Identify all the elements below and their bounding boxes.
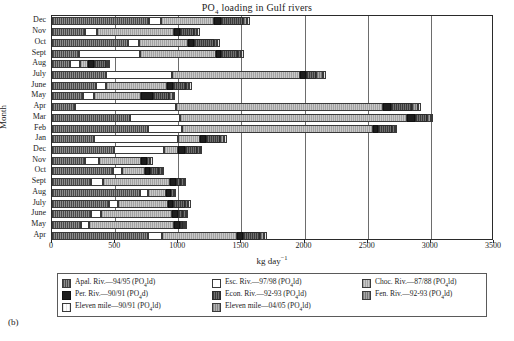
legend-item-elev04[interactable]: Eleven mile—04/05 (PO4ld) [212, 302, 362, 313]
bar-row [52, 50, 244, 58]
bar-segment-esc [79, 50, 140, 58]
legend-label-fen: Fen. Riv.—92-93 (PO4ld) [375, 290, 452, 301]
bar-row [52, 82, 192, 90]
legend-item-econ[interactable]: Econ. Riv.—92-93 (PO4ld) [212, 290, 362, 301]
bar-segment-esc [85, 28, 97, 36]
legend-item-per[interactable]: Per. Riv.—90/91 (PO4d) [62, 290, 212, 301]
bar-segment-apal [52, 125, 148, 133]
y-tick-label: Dec [33, 145, 46, 153]
bar-segment-elev90 [323, 71, 326, 79]
legend: Apal. Riv.—94/95 (PO4ld)Esc. Riv.—97/98 … [57, 273, 487, 317]
bar-segment-per [141, 92, 153, 100]
x-tick-label-3000: 3000 [422, 242, 438, 250]
bar-segment-choc [164, 146, 178, 154]
bar-segment-econ [378, 125, 392, 133]
bar-segment-choc [161, 17, 214, 25]
bar-segment-esc [128, 39, 139, 47]
legend-swatch-apal [62, 279, 71, 288]
bar-row [52, 17, 250, 25]
y-tick-label: Oct [34, 38, 46, 46]
bar-segment-apal [52, 103, 75, 111]
bar-row [52, 221, 187, 229]
bar-segment-apal [52, 167, 113, 175]
x-tick-label-500: 500 [108, 242, 120, 250]
bar-segment-elev90 [264, 232, 267, 240]
bar-row [52, 39, 220, 47]
bar-row [52, 146, 202, 154]
bar-segment-elev90 [184, 178, 186, 186]
bar-segment-elev90 [395, 125, 398, 133]
bar-segment-choc [180, 114, 407, 122]
bar-segment-choc [101, 210, 172, 218]
legend-label-econ: Econ. Riv.—92-93 (PO4ld) [225, 290, 306, 301]
bar-segment-elev90 [431, 114, 434, 122]
legend-swatch-fen [362, 291, 371, 300]
bar-segment-choc [103, 178, 170, 186]
bar-row [52, 28, 200, 36]
legend-swatch-choc [362, 279, 371, 288]
bar-segment-esc [96, 82, 106, 90]
bar-segment-per [383, 103, 391, 111]
legend-item-choc[interactable]: Choc. Riv.—87/88 (PO4ld) [362, 278, 492, 289]
y-tick-label: Nov [32, 27, 46, 35]
legend-label-apal: Apal. Riv.—94/95 (PO4ld) [75, 278, 155, 289]
bar-segment-elev90 [108, 60, 110, 68]
bar-segment-apal [52, 71, 106, 79]
bar-segment-apal [52, 114, 130, 122]
bar-segment-elev90 [189, 82, 192, 90]
bar-segment-apal [52, 157, 85, 165]
legend-swatch-elev04 [212, 303, 221, 312]
bar-row [52, 71, 326, 79]
y-tick-label: Aug [32, 59, 46, 67]
bar-segment-esc [130, 114, 180, 122]
legend-label-esc: Esc. Riv.—97/98 (PO4ld) [225, 278, 301, 289]
bar-segment-apal [52, 39, 128, 47]
y-tick-label: Aug [32, 188, 46, 196]
bar-row [52, 125, 397, 133]
legend-item-elev90[interactable]: Eleven mile—90/91 (PO4ld) [62, 302, 212, 313]
bar-segment-econ [173, 200, 185, 208]
bar-segment-econ [391, 103, 412, 111]
bar-segment-apal [52, 50, 79, 58]
x-tick-label-0: 0 [49, 242, 53, 250]
bar-row [52, 157, 153, 165]
legend-item-esc[interactable]: Esc. Riv.—97/98 (PO4ld) [212, 278, 362, 289]
y-tick-label: Apr [34, 231, 46, 239]
x-axis-title: kg day−1 [51, 254, 493, 266]
x-tick-label-3500: 3500 [485, 242, 501, 250]
bar-row [52, 200, 191, 208]
bar-segment-apal [52, 60, 70, 68]
bar-segment-per [407, 114, 415, 122]
y-tick-label: Apr [34, 102, 46, 110]
bar-segment-esc [148, 232, 162, 240]
legend-item-fen[interactable]: Fen. Riv.—92-93 (PO4ld) [362, 290, 492, 301]
bar-rows [52, 16, 492, 239]
legend-swatch-econ [212, 291, 221, 300]
bar-segment-elev90 [185, 221, 187, 229]
bar-segment-elev90 [188, 200, 191, 208]
legend-swatch-esc [212, 279, 221, 288]
bar-segment-elev90 [186, 210, 188, 218]
bar-segment-esc [91, 178, 104, 186]
bar-segment-esc [91, 210, 101, 218]
bar-segment-econ [221, 17, 242, 25]
bar-segment-choc [106, 82, 167, 90]
y-tick-label: May [31, 220, 46, 228]
legend-swatch-elev90 [62, 303, 71, 312]
legend-label-elev04: Eleven mile—04/05 (PO4ld) [225, 302, 311, 313]
legend-label-per: Per. Riv.—90/91 (PO4d) [75, 290, 148, 301]
bar-segment-econ [221, 50, 238, 58]
y-tick-label: Mar [33, 113, 46, 121]
bar-segment-econ [185, 146, 197, 154]
bar-segment-choc [148, 189, 166, 197]
bar-segment-econ [173, 82, 186, 90]
bar-segment-elev90 [173, 92, 176, 100]
bar-segment-econ [415, 114, 427, 122]
bar-segment-econ [153, 92, 169, 100]
bar-row [52, 167, 164, 175]
bar-segment-apal [52, 92, 83, 100]
legend-item-apal[interactable]: Apal. Riv.—94/95 (PO4ld) [62, 278, 212, 289]
bar-segment-esc [85, 157, 99, 165]
bar-segment-esc [149, 17, 161, 25]
bar-row [52, 189, 176, 197]
